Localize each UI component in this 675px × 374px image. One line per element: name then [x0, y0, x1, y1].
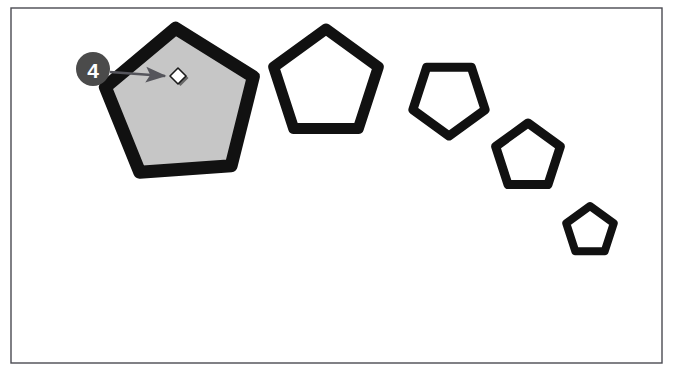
drawing-canvas[interactable]: 4: [0, 0, 675, 374]
figure-root: 4: [0, 0, 675, 374]
callout-number-label: 4: [87, 59, 99, 82]
